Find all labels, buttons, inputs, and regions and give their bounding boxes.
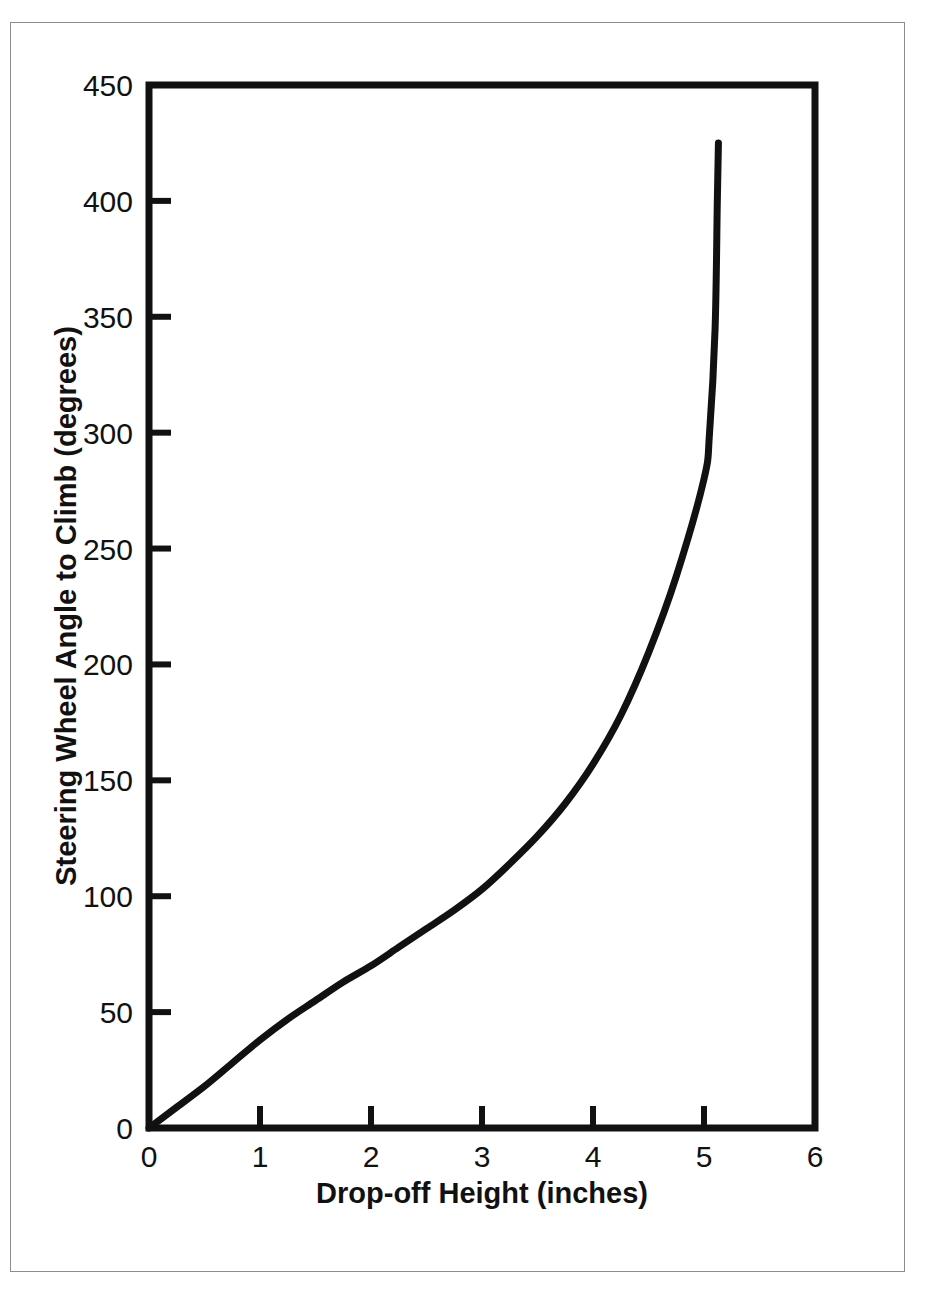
y-axis-title: Steering Wheel Angle to Climb (degrees)	[50, 326, 82, 886]
y-tick-label-50: 50	[100, 996, 133, 1029]
x-tick-label-6: 6	[807, 1140, 824, 1173]
x-axis-tick-labels: 0123456	[141, 1140, 824, 1173]
steering-angle-curve	[149, 143, 718, 1128]
y-tick-label-400: 400	[83, 185, 133, 218]
x-tick-label-0: 0	[141, 1140, 158, 1173]
y-tick-label-450: 450	[83, 69, 133, 102]
figure-container: 050100150200250300350400450 0123456 Drop…	[0, 0, 928, 1295]
y-tick-label-0: 0	[116, 1112, 133, 1145]
y-tick-label-200: 200	[83, 648, 133, 681]
x-tick-label-2: 2	[363, 1140, 380, 1173]
x-axis-title: Drop-off Height (inches)	[316, 1177, 648, 1209]
x-tick-label-1: 1	[252, 1140, 269, 1173]
line-chart: 050100150200250300350400450 0123456 Drop…	[0, 0, 928, 1295]
data-series-group	[149, 143, 718, 1128]
x-tick-label-5: 5	[696, 1140, 713, 1173]
y-tick-label-350: 350	[83, 301, 133, 334]
y-axis-tick-labels: 050100150200250300350400450	[83, 69, 133, 1145]
plot-area-wrapper: 050100150200250300350400450 0123456 Drop…	[0, 0, 928, 1295]
x-tick-label-3: 3	[474, 1140, 491, 1173]
y-tick-label-250: 250	[83, 533, 133, 566]
y-tick-label-300: 300	[83, 417, 133, 450]
x-tick-label-4: 4	[585, 1140, 602, 1173]
y-tick-label-100: 100	[83, 880, 133, 913]
y-tick-label-150: 150	[83, 764, 133, 797]
